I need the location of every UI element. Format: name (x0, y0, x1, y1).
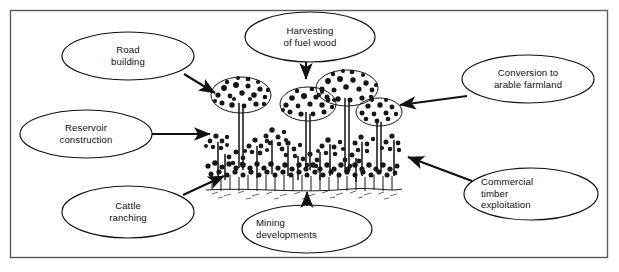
node-reservoir-construction[interactable] (20, 110, 152, 158)
node-commercial-timber-exploitation[interactable] (464, 168, 598, 220)
diagram-vector-layer (0, 0, 619, 272)
node-harvesting-fuel-wood[interactable] (245, 12, 375, 62)
node-conversion-arable-farmland[interactable] (462, 55, 594, 103)
diagram-canvas: Road building Harvesting of fuel wood Co… (0, 0, 619, 272)
node-road-building[interactable] (62, 32, 194, 80)
node-cattle-ranching[interactable] (62, 186, 194, 238)
node-mining-developments[interactable] (242, 205, 372, 253)
